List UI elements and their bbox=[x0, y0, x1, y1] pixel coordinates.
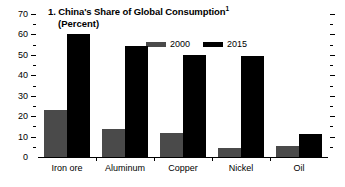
x-label-aluminum: Aluminum bbox=[96, 163, 154, 174]
y-tick-label-0: 0 bbox=[23, 153, 28, 162]
y-tick-minor-15 bbox=[33, 126, 36, 127]
y-tick-label-30: 30 bbox=[18, 91, 28, 100]
bar-copper-2000 bbox=[160, 133, 183, 158]
y-tick-minor-55 bbox=[33, 45, 36, 46]
group-separator-3 bbox=[212, 157, 213, 161]
y-tick-minor-5 bbox=[33, 147, 36, 148]
y-tick-major-20 bbox=[31, 116, 36, 117]
bar-oil-2000 bbox=[276, 146, 299, 157]
y-tick-label-20: 20 bbox=[18, 112, 28, 121]
y-tick-right-minor-25 bbox=[330, 106, 333, 107]
y-tick-minor-35 bbox=[33, 86, 36, 87]
y-tick-right-major-50 bbox=[330, 55, 335, 56]
y-tick-major-60 bbox=[31, 34, 36, 35]
y-tick-label-60: 60 bbox=[18, 30, 28, 39]
bar-copper-2015 bbox=[183, 55, 206, 157]
y-tick-right-major-10 bbox=[330, 137, 335, 138]
y-tick-right-major-20 bbox=[330, 116, 335, 117]
x-axis-baseline bbox=[38, 157, 328, 158]
y-tick-major-10 bbox=[31, 137, 36, 138]
x-label-copper: Copper bbox=[154, 163, 212, 174]
bar-oil-2015 bbox=[299, 134, 322, 157]
group-separator-4 bbox=[270, 157, 271, 161]
y-tick-major-70 bbox=[31, 14, 36, 15]
bar-nickel-2000 bbox=[218, 148, 241, 157]
x-axis-labels: Iron ore Aluminum Copper Nickel Oil bbox=[38, 163, 328, 174]
y-tick-right-minor-5 bbox=[330, 147, 333, 148]
bar-iron-ore-2015 bbox=[67, 34, 90, 157]
y-tick-right-minor-35 bbox=[330, 86, 333, 87]
bar-group-oil bbox=[270, 14, 328, 157]
group-separator-2 bbox=[154, 157, 155, 161]
group-separator-1 bbox=[96, 157, 97, 161]
y-tick-right-minor-65 bbox=[330, 24, 333, 25]
y-tick-right-major-30 bbox=[330, 96, 335, 97]
chart-figure: 1. China's Share of Global Consumption1 … bbox=[0, 0, 345, 187]
bar-nickel-2015 bbox=[241, 56, 264, 157]
bar-group-nickel bbox=[212, 14, 270, 157]
y-tick-major-50 bbox=[31, 55, 36, 56]
y-tick-label-70: 70 bbox=[18, 10, 28, 19]
y-tick-minor-65 bbox=[33, 24, 36, 25]
y-axis: 70 60 50 40 30 20 10 0 bbox=[0, 0, 38, 187]
bar-group-iron-ore bbox=[38, 14, 96, 157]
bar-iron-ore-2000 bbox=[44, 110, 67, 157]
y-tick-minor-25 bbox=[33, 106, 36, 107]
bar-aluminum-2000 bbox=[102, 129, 125, 157]
y-tick-label-50: 50 bbox=[18, 50, 28, 59]
y-tick-right-minor-15 bbox=[330, 126, 333, 127]
bar-group-copper bbox=[154, 14, 212, 157]
y-tick-minor-45 bbox=[33, 65, 36, 66]
bar-groups bbox=[38, 14, 328, 157]
y-tick-right-major-60 bbox=[330, 34, 335, 35]
y-tick-right-minor-45 bbox=[330, 65, 333, 66]
x-label-oil: Oil bbox=[270, 163, 328, 174]
y-tick-right-major-70 bbox=[330, 14, 335, 15]
y-tick-label-10: 10 bbox=[18, 132, 28, 141]
y-tick-major-40 bbox=[31, 75, 36, 76]
y-tick-right-major-40 bbox=[330, 75, 335, 76]
bar-group-aluminum bbox=[96, 14, 154, 157]
x-label-iron-ore: Iron ore bbox=[38, 163, 96, 174]
x-label-nickel: Nickel bbox=[212, 163, 270, 174]
chart-title-footnote-marker: 1 bbox=[225, 5, 229, 12]
y-tick-right-minor-55 bbox=[330, 45, 333, 46]
bar-aluminum-2015 bbox=[125, 46, 148, 157]
y-tick-label-40: 40 bbox=[18, 71, 28, 80]
y-tick-major-30 bbox=[31, 96, 36, 97]
